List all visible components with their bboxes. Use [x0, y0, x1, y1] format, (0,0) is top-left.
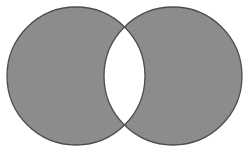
venn-diagram: [0, 0, 247, 150]
